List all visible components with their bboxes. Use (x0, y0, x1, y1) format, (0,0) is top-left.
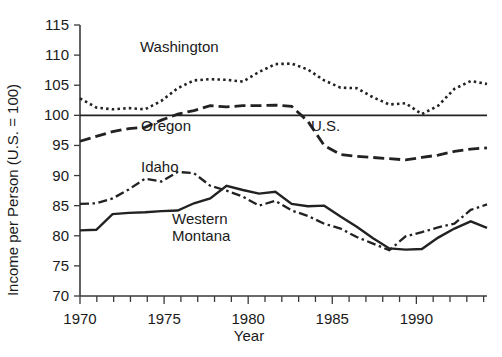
series-label-u-s-: U.S. (311, 117, 340, 134)
series-label-montana: Montana (172, 227, 231, 244)
series-label-idaho: Idaho (141, 158, 179, 175)
y-tick-label: 70 (52, 287, 69, 304)
y-tick-label: 75 (52, 257, 69, 274)
y-tick-label: 80 (52, 227, 69, 244)
y-tick-label: 105 (44, 76, 69, 93)
x-axis-title: Year (234, 327, 264, 344)
series-label-washington: Washington (140, 38, 219, 55)
plot-background (0, 0, 502, 357)
income-per-person-line-chart: 115110105100959085807570 197019751980198… (0, 0, 502, 357)
y-tick-label: 85 (52, 197, 69, 214)
x-tick-label: 1980 (231, 310, 264, 327)
series-label-western: Western (172, 210, 228, 227)
chart-container: 115110105100959085807570 197019751980198… (0, 0, 502, 357)
y-tick-label: 95 (52, 136, 69, 153)
x-tick-label: 1990 (400, 310, 433, 327)
y-axis-title: Income per Person (U.S. = 100) (4, 84, 21, 296)
y-tick-label: 115 (45, 16, 69, 33)
y-tick-label: 110 (45, 46, 69, 63)
y-tick-label: 90 (52, 167, 69, 184)
y-tick-label: 100 (44, 106, 69, 123)
x-tick-label: 1975 (147, 310, 180, 327)
series-label-oregon: Oregon (141, 117, 191, 134)
x-tick-label: 1970 (63, 310, 96, 327)
x-tick-label: 1985 (316, 310, 349, 327)
